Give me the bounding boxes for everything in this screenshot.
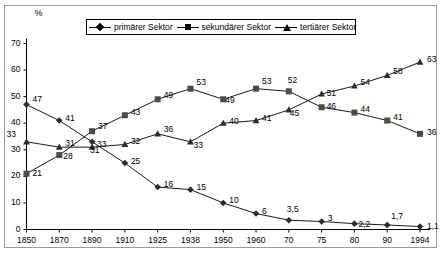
data-label: 44 (360, 105, 369, 114)
data-label: 53 (262, 77, 271, 86)
data-label: 49 (225, 96, 234, 105)
x-axis-tick-label: 90 (373, 236, 401, 245)
x-axis-tick-label: 1910 (111, 236, 139, 245)
data-label: 16 (164, 180, 173, 189)
data-label: 33 (193, 141, 202, 150)
x-axis-tick-label: 1938 (176, 236, 204, 245)
square-marker (89, 128, 95, 134)
triangle-marker (23, 138, 30, 144)
square-marker (384, 118, 390, 124)
data-label: 3 (328, 214, 333, 223)
data-label: 28 (63, 152, 72, 161)
data-label: 41 (65, 114, 74, 123)
data-label: 1,1 (427, 222, 439, 231)
data-label: 6 (262, 207, 267, 216)
diamond-marker (253, 210, 260, 217)
data-label: 47 (33, 95, 42, 104)
triangle-marker (417, 59, 424, 65)
y-axis-tick-label: 0 (3, 225, 21, 234)
data-label: 36 (427, 128, 436, 137)
data-label: 54 (360, 78, 369, 87)
square-marker (24, 171, 30, 177)
data-label: 58 (393, 67, 402, 76)
square-marker (122, 112, 128, 118)
diamond-marker (417, 223, 424, 230)
y-axis-tick-label: 50 (3, 92, 21, 101)
y-axis-tick-label: 60 (3, 65, 21, 74)
data-label: 46 (327, 102, 336, 111)
data-label: 25 (131, 157, 140, 166)
square-marker (155, 96, 161, 102)
diamond-marker (154, 184, 161, 191)
diamond-marker (187, 186, 194, 193)
diamond-marker (318, 218, 325, 225)
y-axis-tick-label: 40 (3, 118, 21, 127)
data-label: 51 (327, 89, 336, 98)
square-marker (417, 131, 423, 137)
diamond-marker (56, 117, 63, 124)
data-label: 43 (131, 108, 140, 117)
x-axis-tick-label: 75 (308, 236, 336, 245)
x-axis-tick-label: 1960 (242, 236, 270, 245)
x-axis-tick-label: 1850 (13, 236, 41, 245)
data-label: 49 (164, 91, 173, 100)
diamond-marker (384, 222, 391, 229)
data-label: 41 (262, 114, 271, 123)
square-marker (253, 86, 259, 92)
square-marker (187, 86, 193, 92)
data-label: 37 (98, 122, 107, 131)
data-label: 3,5 (287, 205, 299, 214)
square-marker (319, 104, 325, 110)
x-axis-tick-label: 1950 (209, 236, 237, 245)
diamond-marker (122, 160, 129, 167)
square-marker (56, 152, 62, 158)
x-axis-tick-label: 1870 (45, 236, 73, 245)
data-label: 1,7 (391, 212, 403, 221)
data-label: 53 (196, 78, 205, 87)
square-marker (351, 110, 357, 116)
data-label: 52 (288, 76, 297, 85)
y-axis-tick-label: 10 (3, 198, 21, 207)
data-label: 21 (33, 169, 42, 178)
data-label: 32 (131, 137, 140, 146)
triangle-marker (154, 130, 161, 136)
data-label: 41 (393, 113, 402, 122)
data-label: 31 (90, 146, 99, 155)
diamond-marker (351, 220, 358, 227)
x-axis-tick-label: 80 (340, 236, 368, 245)
diamond-marker (23, 101, 30, 108)
data-label: 2,2 (358, 220, 370, 229)
x-axis-tick-label: 1994 (406, 236, 434, 245)
data-label: 15 (196, 183, 205, 192)
diamond-marker (220, 200, 227, 207)
data-label: 10 (229, 196, 238, 205)
y-axis-tick-label: 30 (3, 145, 21, 154)
square-marker (286, 88, 292, 94)
line-chart-plot (0, 0, 443, 256)
data-label: 33 (7, 130, 16, 139)
y-axis-tick-label: 70 (3, 39, 21, 48)
data-label: 45 (290, 109, 299, 118)
data-label: 36 (164, 125, 173, 134)
diamond-marker (286, 217, 293, 224)
x-axis-tick-label: 70 (275, 236, 303, 245)
x-axis-tick-label: 1925 (144, 236, 172, 245)
data-label: 31 (65, 139, 74, 148)
x-axis-tick-label: 1890 (78, 236, 106, 245)
y-axis-tick-label: 20 (3, 171, 21, 180)
data-label: 63 (427, 55, 436, 64)
data-label: 40 (229, 117, 238, 126)
